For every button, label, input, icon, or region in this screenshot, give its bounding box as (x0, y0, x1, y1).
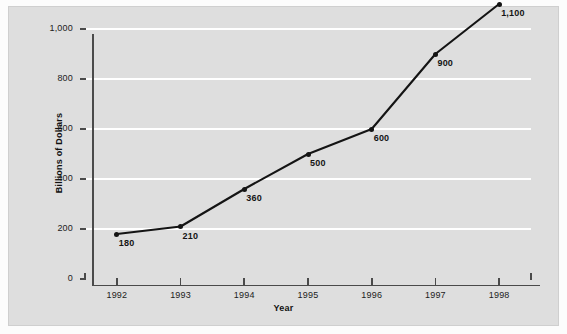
x-axis-title: Year (0, 303, 567, 313)
data-point (114, 232, 119, 237)
data-point-label: 180 (119, 238, 135, 248)
data-point-label: 600 (374, 133, 390, 143)
data-point-label: 500 (310, 158, 326, 168)
data-point (306, 152, 311, 157)
chart-panel: 02004006008001,000 199219931994199519961… (8, 6, 559, 326)
data-point (497, 2, 502, 7)
chart-figure: 02004006008001,000 199219931994199519961… (0, 0, 567, 334)
data-point (369, 127, 374, 132)
data-point-label: 1,100 (501, 8, 525, 18)
data-point-label: 210 (183, 231, 199, 241)
data-point-label: 360 (246, 193, 262, 203)
data-point (242, 187, 247, 192)
data-point-label: 900 (437, 58, 453, 68)
data-point (433, 52, 438, 57)
line-series (9, 7, 567, 334)
